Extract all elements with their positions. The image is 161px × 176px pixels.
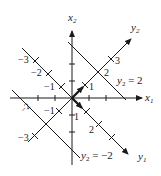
y2-tick-label-neg1: −1 [44,105,55,116]
line-y2-equals-neg2-label: y2 = −2 [80,149,113,163]
line-y2-equals-2-label: y2 = 2 [116,74,143,88]
y2-tick-label-neg2: −2 [18,101,32,115]
y2-tick-label-neg3: −3 [18,132,29,143]
y1-tick-label-neg3: −3 [18,54,29,65]
y2-tick-label-1: 1 [89,81,94,92]
y1-tick-label-2: 2 [89,124,94,135]
y1-tick-label-neg2: −2 [31,67,42,78]
y2-axis-label: y2 [130,21,140,35]
x1-axis-label: x1 [144,91,153,105]
y1-tick-label-neg1: −1 [44,81,55,92]
y1-tick-label-1: 1 [74,111,79,122]
y1-axis-label: y1 [137,150,146,164]
y2-tick-label-3: 3 [115,55,120,66]
y2-tick-label-2: 2 [104,67,109,78]
line-y2-equals-2 [68,42,126,100]
x2-axis-label: x2 [67,11,77,25]
coordinate-rotation-diagram: x1 x2 y1 y2 [0,0,161,176]
